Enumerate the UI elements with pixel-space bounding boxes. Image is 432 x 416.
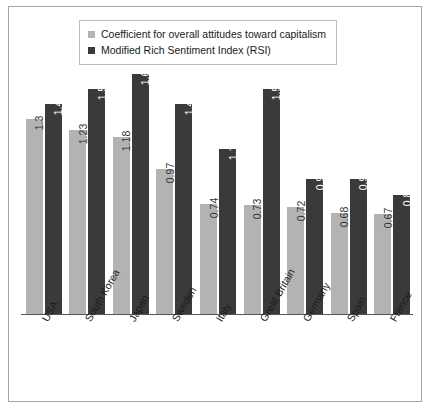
bar: 1.3 (26, 119, 43, 315)
bar-group: 0.741.1 (200, 59, 236, 315)
bar-group: 0.731.5 (244, 59, 280, 315)
bar-value-label: 1.3 (34, 116, 45, 131)
bar: 1.6 (132, 74, 149, 315)
bar-value-label: 0.97 (165, 163, 176, 183)
bar-group: 0.680.9 (331, 59, 367, 315)
bar: 1.18 (113, 137, 130, 315)
plot-area: 1.31.41.231.51.181.60.971.40.741.10.731.… (21, 59, 411, 315)
square-swatch-light-icon (88, 31, 95, 38)
square-swatch-dark-icon (88, 47, 95, 54)
bar: 0.97 (156, 169, 173, 315)
bar: 0.72 (287, 207, 304, 315)
bar-group: 1.31.4 (26, 59, 62, 315)
bar: 1.4 (45, 104, 62, 315)
chart-frame: Coefficient for overall attitudes toward… (8, 6, 422, 402)
bar-value-label: 1.6 (140, 71, 151, 86)
bar-value-label: 0.8 (402, 191, 413, 206)
legend-item-rsi: Modified Rich Sentiment Index (RSI) (88, 43, 326, 58)
legend-item-coefficient: Coefficient for overall attitudes toward… (88, 27, 326, 42)
bar-group: 0.670.8 (374, 59, 410, 315)
legend-item-label: Modified Rich Sentiment Index (RSI) (101, 45, 271, 56)
bar: 1.1 (219, 149, 236, 315)
bar-group: 1.231.5 (69, 59, 105, 315)
bar-value-label: 0.73 (252, 199, 263, 219)
bar-value-label: 1.1 (228, 146, 239, 161)
category-axis-labels: USASouth KoreaJapanSwedenItalyGreat Brit… (21, 318, 413, 404)
bar: 0.74 (200, 204, 217, 315)
legend-item-label: Coefficient for overall attitudes toward… (101, 29, 326, 40)
bar: 0.68 (331, 213, 348, 315)
bar-value-label: 1.4 (184, 101, 195, 116)
bar: 1.4 (175, 104, 192, 315)
bar: 0.73 (244, 205, 261, 315)
bar-value-label: 1.23 (78, 124, 89, 144)
bar-value-label: 1.18 (121, 131, 132, 151)
bar-value-label: 1.5 (97, 86, 108, 101)
bar-value-label: 1.4 (53, 101, 64, 116)
bar-value-label: 0.72 (296, 200, 307, 220)
bar-value-label: 0.74 (209, 197, 220, 217)
bar-group: 0.971.4 (156, 59, 192, 315)
bar-value-label: 0.9 (315, 176, 326, 191)
bar: 1.23 (69, 130, 86, 315)
bar-value-label: 1.5 (271, 86, 282, 101)
bar-value-label: 0.68 (339, 206, 350, 226)
bar: 0.67 (374, 214, 391, 315)
bar-value-label: 0.67 (383, 208, 394, 228)
bar-value-label: 0.9 (358, 176, 369, 191)
